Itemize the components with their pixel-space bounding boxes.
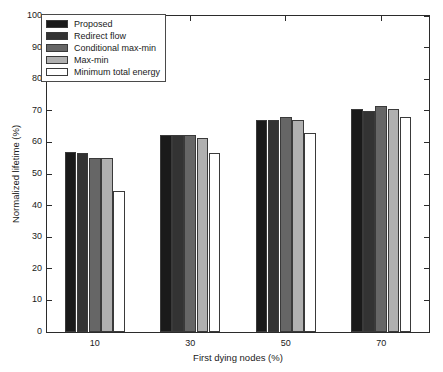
bar [268, 120, 280, 332]
bar [375, 106, 387, 332]
bar [113, 191, 125, 332]
y-tick-mark [47, 142, 52, 143]
bar [172, 135, 184, 333]
bar [256, 120, 268, 332]
bar-group [351, 16, 411, 332]
y-tick-mark-right [424, 110, 429, 111]
x-axis-label: First dying nodes (%) [46, 352, 430, 363]
bar [280, 117, 292, 332]
y-tick-label: 30 [32, 230, 42, 243]
chart-legend: ProposedRedirect flowConditional max-min… [41, 14, 166, 82]
bar [184, 135, 196, 333]
legend-item: Conditional max-min [46, 42, 160, 54]
y-tick-label: 70 [32, 104, 42, 117]
bar [77, 153, 89, 332]
y-tick-mark [47, 332, 52, 333]
legend-item: Redirect flow [46, 30, 160, 42]
legend-label: Proposed [74, 18, 113, 30]
bar [363, 111, 375, 332]
legend-label: Conditional max-min [74, 42, 156, 54]
y-tick-label: 60 [32, 135, 42, 148]
bar [65, 152, 77, 332]
y-tick-mark [47, 205, 52, 206]
legend-swatch [46, 20, 68, 28]
bar [388, 109, 400, 332]
y-tick-mark [47, 268, 52, 269]
bar [101, 158, 113, 332]
y-tick-label: 100 [27, 9, 42, 22]
y-tick-mark [47, 300, 52, 301]
bar [304, 133, 316, 332]
bar [160, 135, 172, 333]
legend-label: Minimum total energy [74, 66, 160, 78]
y-axis-label: Normalized lifetime (%) [9, 15, 23, 333]
x-tick-label: 70 [361, 338, 401, 348]
legend-label: Max-min [74, 54, 109, 66]
bar [292, 120, 304, 332]
y-tick-mark-right [424, 300, 429, 301]
bar [197, 138, 209, 332]
bar [351, 109, 363, 332]
bar [400, 117, 412, 332]
y-tick-mark-right [424, 174, 429, 175]
y-tick-label: 10 [32, 293, 42, 306]
x-tick-label: 30 [170, 338, 210, 348]
x-tick-label: 10 [75, 338, 115, 348]
legend-swatch [46, 32, 68, 40]
legend-item: Minimum total energy [46, 66, 160, 78]
legend-item: Max-min [46, 54, 160, 66]
bar [209, 153, 221, 332]
y-tick-mark-right [424, 268, 429, 269]
legend-item: Proposed [46, 18, 160, 30]
legend-swatch [46, 44, 68, 52]
legend-label: Redirect flow [74, 30, 126, 42]
legend-swatch [46, 68, 68, 76]
bar-chart-figure: 010203040506070809010010305070 Normalize… [0, 0, 443, 372]
legend-swatch [46, 56, 68, 64]
y-tick-mark-right [424, 16, 429, 17]
y-tick-mark-right [424, 142, 429, 143]
y-tick-label: 20 [32, 262, 42, 275]
y-tick-label: 40 [32, 199, 42, 212]
y-tick-mark-right [424, 332, 429, 333]
y-tick-mark-right [424, 205, 429, 206]
y-tick-mark-right [424, 237, 429, 238]
bar [89, 158, 101, 332]
y-tick-mark [47, 174, 52, 175]
x-tick-label: 50 [266, 338, 306, 348]
bar-group [256, 16, 316, 332]
y-tick-label: 50 [32, 167, 42, 180]
y-tick-label: 0 [37, 325, 42, 338]
y-tick-mark-right [424, 79, 429, 80]
y-tick-mark [47, 110, 52, 111]
y-tick-mark-right [424, 47, 429, 48]
bar-group [160, 16, 220, 332]
y-tick-mark [47, 237, 52, 238]
